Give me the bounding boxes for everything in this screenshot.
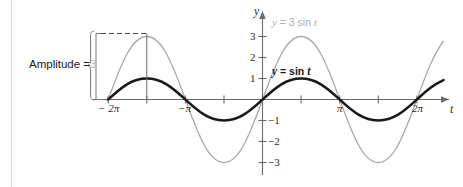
x-tick-label-neg-2pi: − 2π [98,103,119,114]
y-tick-label-neg-2: −2 [268,136,280,147]
curve-label-three-sin-t-var: y [272,16,277,28]
x-tick-label-pi: π [337,103,343,114]
y-tick-label-neg-1: −1 [268,115,280,126]
y-tick-label-neg-3: −3 [268,157,280,168]
x-axis-label: t [450,104,453,116]
amplitude-annotation-label: Amplitude = [29,58,90,70]
x-tick-label-2pi: 2π [412,103,423,114]
plot-canvas [0,0,463,187]
y-axis-arrowhead [259,11,266,19]
x-axis-arrowhead [441,96,449,103]
curve-label-three-sin-t-arg: t [314,16,317,28]
curve-label-sin-t-var: y [272,65,277,77]
amplitude-annotation: Amplitude =3 [29,59,96,71]
y-axis-label: y [254,6,259,18]
y-tick-label-3: 3 [250,31,256,42]
amplitude-bracket [96,34,104,100]
amplitude-annotation-value: 3 [90,58,96,70]
curve-label-sin-t-body: = sin [280,65,304,77]
curve-label-sin-t-arg: t [307,65,310,77]
curve-label-three-sin-t: y = 3 sin t [272,17,317,28]
x-tick-label-neg-pi: −π [178,103,191,114]
y-tick-label-2: 2 [250,52,256,63]
sine-amplitude-figure: Amplitude =3 y = 3 sin t y = sin t y t −… [0,0,463,187]
y-tick-label-1: 1 [250,73,256,84]
x-axis [92,96,449,103]
curve-label-three-sin-t-body: = 3 sin [280,16,311,28]
curve-label-sin-t: y = sin t [272,66,310,78]
